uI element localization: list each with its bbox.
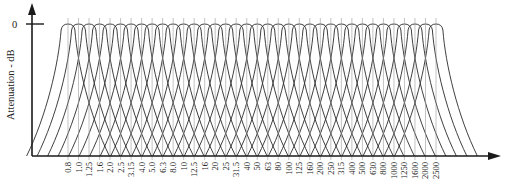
- x-tick-label: 40: [242, 162, 252, 171]
- x-tick-label: 5.0: [147, 162, 157, 173]
- x-tick-label: 16: [200, 162, 210, 171]
- x-tick-label: 4.0: [137, 162, 147, 173]
- y-axis-arrow-icon: [28, 3, 36, 15]
- x-tick-label: 1250: [399, 162, 409, 179]
- x-tick-label: 315: [336, 162, 346, 175]
- x-tick-label: 630: [368, 162, 378, 175]
- filter-curves: [27, 24, 478, 156]
- y-axis-label: Attenuation - dB: [5, 49, 16, 120]
- x-tick-label: 500: [357, 162, 367, 175]
- x-tick-label: 1.0: [74, 162, 84, 173]
- x-tick-label: 100: [284, 162, 294, 175]
- x-tick-label: 250: [326, 162, 336, 175]
- x-tick-label: 3.15: [126, 162, 136, 177]
- x-tick-label: 200: [315, 162, 325, 175]
- x-tick-label: 125: [294, 162, 304, 175]
- x-tick-label: 50: [252, 162, 262, 171]
- x-tick-label: 2.0: [105, 162, 115, 173]
- x-tick-label: 8.0: [168, 162, 178, 173]
- x-tick-label: 400: [347, 162, 357, 175]
- zero-label: 0: [12, 19, 17, 30]
- x-axis-arrow-icon: [488, 152, 501, 160]
- filter-bank-chart: 0 Attenuation - dB 0.81.01.251.62.02.53.…: [0, 0, 507, 193]
- x-tick-label: 12.5: [189, 162, 199, 177]
- x-tick-label: 6.3: [158, 162, 168, 173]
- x-tick-label: 25: [221, 162, 231, 171]
- x-tick-label: 1.6: [95, 162, 105, 173]
- x-tick-label: 160: [305, 162, 315, 175]
- x-tick-label: 80: [273, 162, 283, 171]
- x-tick-label: 800: [378, 162, 388, 175]
- x-tick-label: 31.5: [231, 162, 241, 177]
- x-tick-label: 63: [263, 162, 273, 171]
- x-tick-label: 0.8: [63, 162, 73, 173]
- x-tick-label: 2000: [420, 162, 430, 179]
- x-tick-label: 10: [179, 162, 189, 171]
- x-tick-label: 20: [210, 162, 220, 171]
- x-tick-label: 1.25: [84, 162, 94, 177]
- x-tick-labels: 0.81.01.251.62.02.53.154.05.06.38.01012.…: [63, 162, 441, 179]
- x-tick-label: 1600: [410, 162, 420, 179]
- x-tick-label: 2500: [431, 162, 441, 179]
- x-tick-label: 1000: [389, 162, 399, 179]
- x-tick-label: 2.5: [116, 162, 126, 173]
